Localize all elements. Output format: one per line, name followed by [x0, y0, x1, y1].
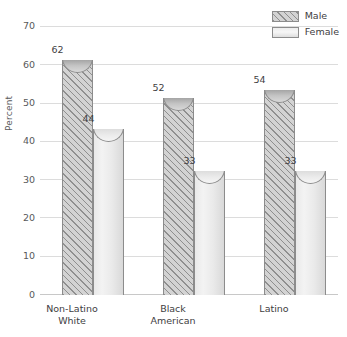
value-label-female-latino: 33 [275, 156, 306, 166]
y-tick-60: 60 [5, 60, 35, 70]
bar-cup-icon [295, 169, 326, 184]
y-tick-10: 10 [5, 251, 35, 261]
bar-cup-icon [194, 169, 225, 184]
legend-swatch-female-icon [272, 27, 299, 38]
bar-chart: Percent 70 60 50 40 30 20 10 0 [0, 0, 347, 337]
y-tick-30: 30 [5, 175, 35, 185]
bar-male-non-latino-white[interactable] [62, 58, 93, 295]
legend: Male Female [272, 9, 339, 41]
value-label-female-non-latino-white: 44 [73, 114, 104, 124]
bar-female-latino[interactable] [295, 169, 326, 295]
legend-item-female[interactable]: Female [272, 25, 339, 39]
legend-label-female: Female [305, 27, 339, 37]
x-label-black-american: Black American [133, 303, 213, 327]
bar-cup-icon [93, 127, 124, 142]
x-label-line-1: Non-Latino [32, 303, 112, 315]
bar-male-black-american[interactable] [163, 96, 194, 295]
value-label-male-non-latino-white: 62 [42, 45, 73, 55]
bar-cup-icon [62, 58, 93, 73]
bar-female-black-american[interactable] [194, 169, 225, 295]
legend-label-male: Male [305, 11, 328, 21]
y-tick-40: 40 [5, 136, 35, 146]
value-label-male-black-american: 52 [143, 83, 174, 93]
bar-male-latino[interactable] [264, 88, 295, 295]
y-tick-50: 50 [5, 98, 35, 108]
value-label-female-black-american: 33 [174, 156, 205, 166]
y-tick-0: 0 [5, 290, 35, 300]
x-label-line-1: Black [133, 303, 213, 315]
bar-cup-icon [264, 88, 295, 103]
x-label-line-1: Latino [234, 303, 314, 315]
legend-item-male[interactable]: Male [272, 9, 339, 23]
x-label-line-2: White [32, 315, 112, 327]
y-tick-70: 70 [5, 21, 35, 31]
x-label-non-latino-white: Non-Latino White [32, 303, 112, 327]
bar-cup-icon [163, 96, 194, 111]
legend-swatch-male-icon [272, 11, 299, 22]
value-label-male-latino: 54 [244, 75, 275, 85]
x-label-line-2: American [133, 315, 213, 327]
x-label-latino: Latino [234, 303, 314, 315]
bar-female-non-latino-white[interactable] [93, 127, 124, 295]
y-tick-20: 20 [5, 213, 35, 223]
